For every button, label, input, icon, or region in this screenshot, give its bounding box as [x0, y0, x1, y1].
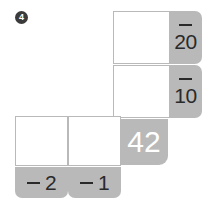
- minus-icon: −: [179, 24, 192, 26]
- row-label-20-value: 20: [174, 31, 196, 52]
- column-label-2-value: 2: [45, 172, 56, 193]
- product-total: 42: [120, 119, 168, 165]
- problem-number-badge: 4: [15, 11, 28, 24]
- answer-box-bottom-left[interactable]: [15, 116, 68, 166]
- minus-icon: −: [27, 182, 40, 184]
- answer-box-row1[interactable]: [113, 11, 170, 64]
- minus-icon: −: [179, 78, 192, 80]
- column-label-1-value: 1: [98, 172, 109, 193]
- column-label-2: − 2: [15, 167, 68, 198]
- worksheet-problem-4: 4 − 20 − 10 − 2 − 1 42: [0, 0, 210, 212]
- row-label-10: − 10: [169, 65, 202, 118]
- column-label-1: − 1: [68, 167, 121, 198]
- row-label-10-value: 10: [174, 85, 196, 106]
- minus-icon: −: [80, 182, 93, 184]
- answer-box-row2[interactable]: [113, 65, 170, 118]
- answer-box-bottom-right[interactable]: [68, 116, 121, 166]
- row-label-20: − 20: [169, 11, 202, 64]
